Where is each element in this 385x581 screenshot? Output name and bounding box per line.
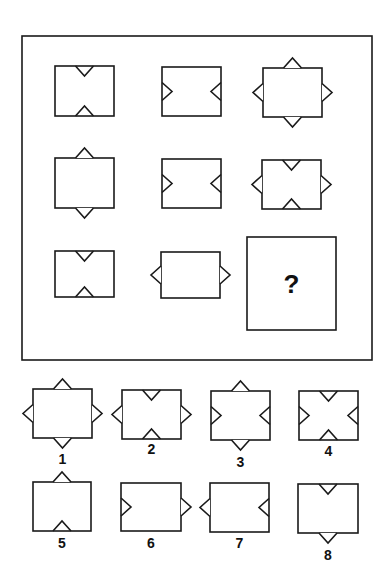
matrix-cell-r2c1 bbox=[55, 148, 114, 218]
option-label-3: 3 bbox=[237, 455, 245, 469]
option-label-8: 8 bbox=[324, 548, 332, 562]
answer-option-3[interactable] bbox=[211, 381, 270, 450]
option-label-7: 7 bbox=[236, 536, 244, 550]
option-label-2: 2 bbox=[148, 442, 156, 456]
option-label-6: 6 bbox=[147, 536, 155, 550]
puzzle-stage: ? 12345678 bbox=[0, 0, 385, 581]
answer-option-5[interactable] bbox=[33, 472, 91, 531]
matrix-cell-r2c2 bbox=[162, 159, 221, 208]
option-label-5: 5 bbox=[58, 536, 66, 550]
question-mark: ? bbox=[284, 271, 300, 297]
answer-option-2[interactable] bbox=[112, 390, 191, 439]
option-label-4: 4 bbox=[325, 444, 333, 458]
puzzle-canvas bbox=[0, 0, 385, 581]
answer-option-4[interactable] bbox=[299, 391, 358, 440]
matrix-cell-r2c3 bbox=[252, 160, 331, 209]
matrix-cell-r3c2 bbox=[151, 252, 230, 298]
matrix-cell-r1c2 bbox=[162, 67, 221, 116]
answer-option-1[interactable] bbox=[23, 379, 102, 448]
matrix-cell-r1c1 bbox=[55, 66, 114, 116]
matrix-cell-r1c3 bbox=[253, 58, 332, 127]
answer-option-8[interactable] bbox=[298, 484, 358, 543]
option-label-1: 1 bbox=[59, 452, 67, 466]
matrix-cell-r3c1 bbox=[55, 251, 114, 297]
answer-option-7[interactable] bbox=[200, 483, 269, 532]
answer-option-6[interactable] bbox=[121, 483, 191, 531]
